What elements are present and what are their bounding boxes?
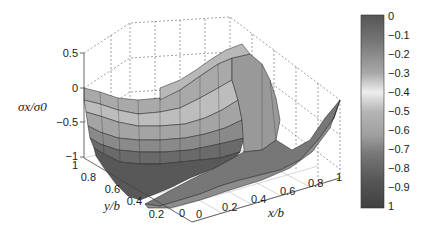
x-tick: 0.4 <box>251 193 266 205</box>
colorbar-tick: −0.4 <box>388 86 410 98</box>
y-tick: 1 <box>72 159 78 171</box>
colorbar: 0 −0.1 −0.2 −0.3 −0.4 −0.5 −0.6 −0.7 −0.… <box>361 10 410 212</box>
z-axis: 0.5 0 −0.5 −1 σx/σ0 <box>18 47 84 162</box>
x-tick: 0.6 <box>280 185 295 197</box>
x-tick: 0.8 <box>308 177 323 189</box>
colorbar-tick: 1 <box>388 200 394 212</box>
z-tick: −0.5 <box>56 116 78 128</box>
colorbar-tick: −0.7 <box>388 143 410 155</box>
colorbar-tick: −0.2 <box>388 48 410 60</box>
colorbar-tick: −0.3 <box>388 67 410 79</box>
y-tick: 0.8 <box>81 171 96 183</box>
x-tick: 1 <box>336 171 342 183</box>
z-tick: 0 <box>72 82 78 94</box>
y-tick: 0.2 <box>149 208 164 220</box>
colorbar-tick: −0.9 <box>388 181 410 193</box>
colorbar-tick: −0.8 <box>388 162 410 174</box>
y-tick: 0.4 <box>127 195 142 207</box>
surface-plot: 0.5 0 −0.5 −1 σx/σ0 1 0.8 0.6 0.4 0.2 0 … <box>0 0 424 234</box>
z-axis-label: σx/σ0 <box>18 99 47 114</box>
colorbar-tick: 0 <box>388 10 394 22</box>
y-tick: 0.6 <box>105 183 120 195</box>
z-tick: 0.5 <box>63 47 78 59</box>
y-axis-label: y/b <box>102 198 120 213</box>
colorbar-tick: −0.5 <box>388 105 410 117</box>
x-tick: 0.2 <box>222 201 237 213</box>
colorbar-tick: −0.1 <box>388 29 410 41</box>
y-tick: 0 <box>179 207 185 219</box>
x-tick: 0 <box>196 208 202 220</box>
surface <box>84 44 340 208</box>
colorbar-gradient <box>361 15 384 208</box>
x-axis-label: x/b <box>267 205 284 220</box>
colorbar-tick: −0.6 <box>388 124 410 136</box>
